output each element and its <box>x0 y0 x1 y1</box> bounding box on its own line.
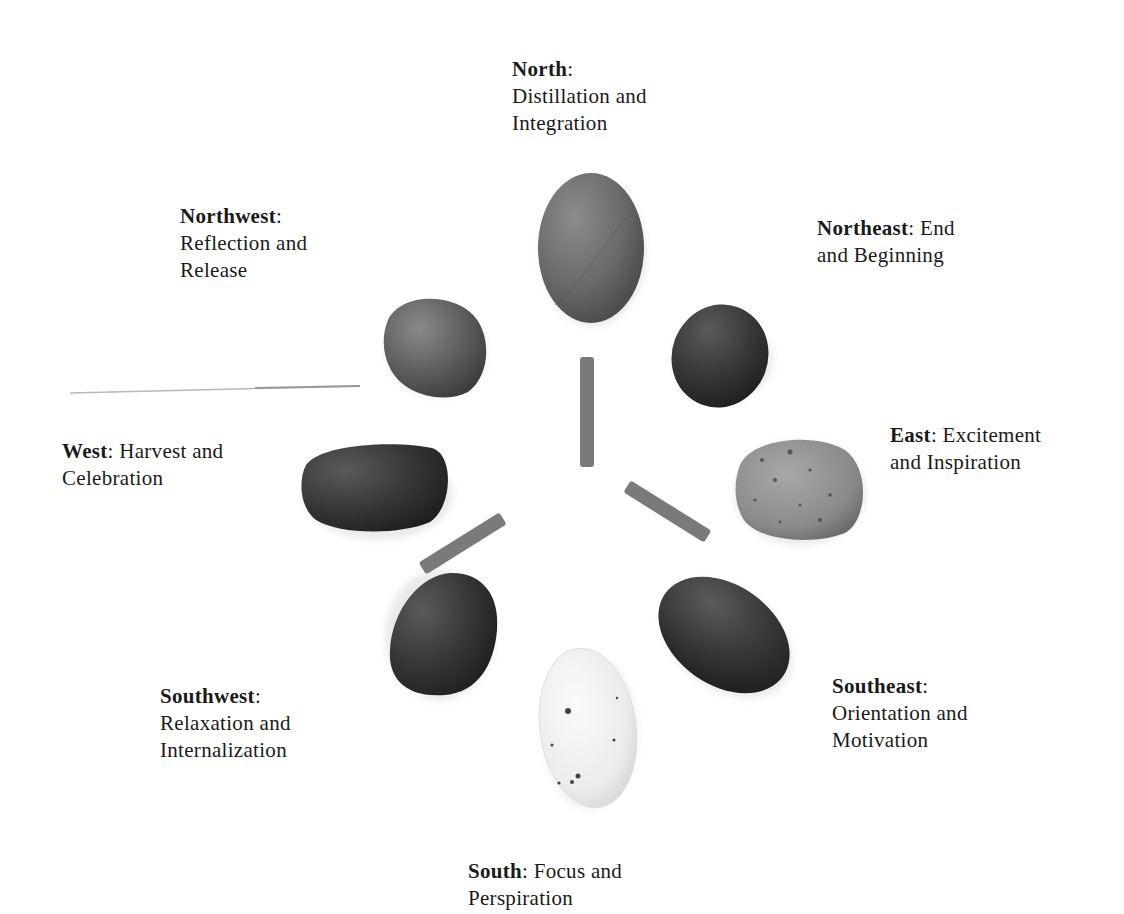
pin-line-thick <box>255 386 360 388</box>
label-southeast: Southeast: Orientation and Motivation <box>832 673 968 754</box>
direction-meaning: Orientation and <box>832 701 968 725</box>
direction-meaning: Motivation <box>832 728 928 752</box>
direction-name: West <box>62 439 108 463</box>
direction-meaning: Excitement <box>937 423 1041 447</box>
label-north: North: Distillation and Integration <box>512 56 647 137</box>
label-east: East: Excitement and Inspiration <box>890 422 1041 476</box>
direction-meaning: and Inspiration <box>890 450 1021 474</box>
direction-name: Northwest <box>180 204 276 228</box>
label-west: West: Harvest and Celebration <box>62 438 223 492</box>
stone-northwest <box>384 299 487 398</box>
stone-north <box>538 173 646 326</box>
stone-east <box>734 440 866 545</box>
direction-name: North <box>512 57 567 81</box>
twig-right <box>623 480 711 542</box>
direction-meaning: Relaxation and <box>160 711 291 735</box>
direction-meaning: Reflection and <box>180 231 307 255</box>
direction-meaning: Harvest and <box>114 439 224 463</box>
label-south: South: Focus and Perspiration <box>468 858 622 912</box>
direction-meaning: Integration <box>512 111 607 135</box>
direction-name: South <box>468 859 522 883</box>
label-northeast: Northeast: End and Beginning <box>817 215 955 269</box>
direction-name: Southwest <box>160 684 255 708</box>
direction-meaning: Celebration <box>62 466 163 490</box>
label-southwest: Southwest: Relaxation and Internalizatio… <box>160 683 291 764</box>
direction-meaning: and Beginning <box>817 243 944 267</box>
direction-meaning: Release <box>180 258 247 282</box>
label-northwest: Northwest: Reflection and Release <box>180 203 307 284</box>
stone-southwest <box>385 570 497 700</box>
stone-west <box>301 444 453 540</box>
direction-meaning: End <box>915 216 955 240</box>
twig-vertical <box>580 357 594 467</box>
stone-southeast <box>636 553 814 723</box>
direction-meaning: Distillation and <box>512 84 647 108</box>
direction-meaning: Focus and <box>528 859 622 883</box>
direction-name: Northeast <box>817 216 908 240</box>
direction-meaning: Internalization <box>160 738 287 762</box>
direction-name: East <box>890 423 931 447</box>
direction-meaning: Perspiration <box>468 886 573 910</box>
direction-name: Southeast <box>832 674 922 698</box>
stone-northeast <box>657 291 783 422</box>
stone-south <box>529 642 646 814</box>
